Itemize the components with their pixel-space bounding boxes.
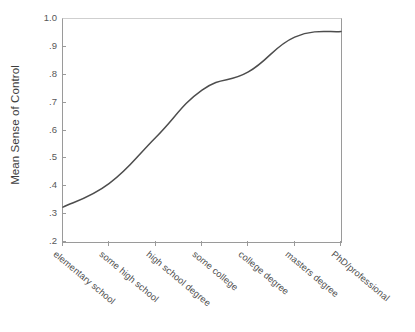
series-path-mean-sense-of-control: [63, 31, 341, 207]
x-tick-label: some college: [191, 249, 240, 293]
y-tick-label: 1.0: [33, 12, 57, 24]
y-tick-label-text: .8: [33, 68, 57, 80]
y-tick-label-text: 1.0: [33, 12, 57, 24]
y-tick-label: .4: [33, 179, 57, 191]
y-tick-label: .5: [33, 151, 57, 163]
y-tick-label-text: .2: [33, 235, 57, 247]
x-tick-mark: [62, 241, 63, 246]
x-tick-mark: [201, 241, 202, 246]
y-tick-label-text: .3: [33, 207, 57, 219]
y-tick-label: .9: [33, 40, 57, 52]
chart-screenshot: Mean Sense of Control 1.0.9.8.7.6.5.4.3.…: [0, 0, 415, 332]
y-tick-label-text: .7: [33, 96, 57, 108]
y-tick-label-text: .9: [33, 40, 57, 52]
y-tick-label-text: .6: [33, 124, 57, 136]
x-tick-mark: [155, 241, 156, 246]
y-tick-label: .8: [33, 68, 57, 80]
x-tick-mark: [294, 241, 295, 246]
y-tick-label-text: .4: [33, 179, 57, 191]
x-tick-label: PhD/professional: [330, 249, 392, 303]
x-tick-mark: [108, 241, 109, 246]
line-series: [63, 19, 341, 242]
x-tick-mark: [247, 241, 248, 246]
plot-area: [62, 18, 342, 243]
x-tick-mark: [340, 241, 341, 246]
y-tick-label: .3: [33, 207, 57, 219]
y-tick-label: .2: [33, 235, 57, 247]
y-axis-title: Mean Sense of Control: [0, 0, 30, 250]
y-axis-title-text: Mean Sense of Control: [9, 65, 21, 185]
y-tick-label-text: .5: [33, 151, 57, 163]
y-tick-label: .7: [33, 96, 57, 108]
y-tick-label: .6: [33, 124, 57, 136]
